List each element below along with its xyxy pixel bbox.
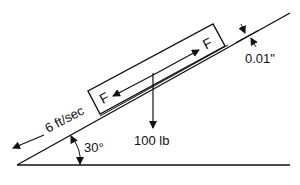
weight-label: 100 lb <box>134 133 169 148</box>
gap-arrow-top <box>241 24 245 33</box>
velocity-arrow <box>13 135 44 148</box>
angle-label: 30° <box>84 140 104 155</box>
gap-indicator-line <box>236 31 258 43</box>
gap-arrow-bottom <box>251 38 256 47</box>
angle-arc <box>71 136 80 164</box>
velocity-label: 6 ft/sec <box>42 102 86 135</box>
incline-diagram: F F 100 lb 6 ft/sec 30° 0.01" <box>0 0 300 185</box>
gap-label: 0.01" <box>245 51 275 66</box>
